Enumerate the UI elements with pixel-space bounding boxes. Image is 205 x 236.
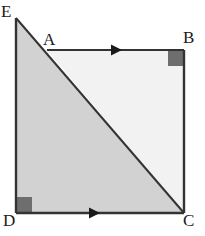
vertex-label-a: A <box>43 31 55 48</box>
vertex-label-d: D <box>3 212 15 229</box>
geometry-canvas <box>0 0 205 236</box>
vertex-label-c: C <box>183 212 194 229</box>
right-angle-marker-b <box>168 51 183 66</box>
vertex-label-b: B <box>183 29 194 46</box>
geometry-figure: E A B C D <box>0 0 205 236</box>
vertex-label-e: E <box>1 3 11 20</box>
right-angle-marker-d <box>17 197 32 212</box>
